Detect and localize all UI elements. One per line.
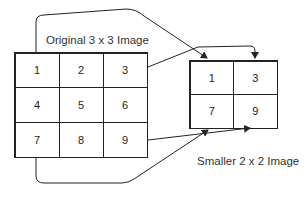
original-cell-1: 1 bbox=[15, 53, 60, 89]
smaller-image-title: Smaller 2 x 2 Image bbox=[197, 155, 299, 167]
smaller-cell-7: 7 bbox=[190, 94, 235, 129]
original-3x3-grid: 1 2 3 4 5 6 7 8 9 bbox=[14, 52, 148, 158]
original-cell-7: 7 bbox=[15, 122, 60, 158]
original-cell-6: 6 bbox=[103, 87, 148, 123]
smaller-2x2-grid: 1 3 7 9 bbox=[189, 60, 278, 129]
original-cell-3: 3 bbox=[103, 53, 148, 89]
smaller-cell-1: 1 bbox=[190, 61, 235, 96]
original-cell-4: 4 bbox=[15, 87, 60, 123]
original-cell-8: 8 bbox=[59, 122, 104, 158]
original-cell-9: 9 bbox=[103, 122, 148, 158]
original-cell-2: 2 bbox=[59, 53, 104, 89]
smaller-cell-9: 9 bbox=[233, 94, 278, 129]
smaller-cell-3: 3 bbox=[233, 61, 278, 96]
arrow-9-to-9 bbox=[148, 128, 250, 140]
original-image-title: Original 3 x 3 Image bbox=[46, 34, 149, 46]
original-cell-5: 5 bbox=[59, 87, 104, 123]
